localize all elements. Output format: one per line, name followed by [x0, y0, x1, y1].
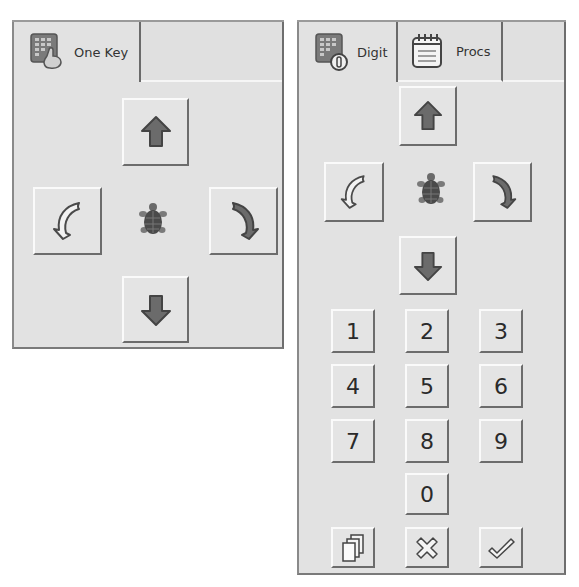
rotate-right-icon [488, 173, 518, 211]
digit-7-button[interactable]: 7 [331, 419, 375, 463]
turn-right-button[interactable] [473, 162, 532, 222]
tab-label: One Key [74, 45, 128, 60]
digit-0-button[interactable]: 0 [405, 473, 449, 515]
digit-6-button[interactable]: 6 [479, 364, 523, 408]
tab-strip [141, 22, 282, 82]
digit-9-button[interactable]: 9 [479, 419, 523, 463]
digit-5-button[interactable]: 5 [405, 364, 449, 408]
digit-label: 3 [494, 319, 508, 344]
digit-label: 0 [420, 482, 434, 507]
rotate-left-icon [339, 173, 369, 211]
cancel-button[interactable] [405, 527, 449, 568]
turn-left-button[interactable] [33, 187, 102, 255]
move-forward-button[interactable] [399, 86, 457, 146]
tab-label: Procs [456, 44, 491, 59]
turtle-icon [416, 172, 446, 212]
tab-label: Digit [357, 45, 388, 60]
copy-pages-icon [340, 533, 366, 563]
digit-8-button[interactable]: 8 [405, 419, 449, 463]
x-icon [413, 534, 441, 562]
notepad-icon [410, 32, 444, 70]
tab-procs[interactable]: Procs [398, 22, 503, 82]
move-back-button[interactable] [122, 276, 189, 343]
tab-digit[interactable]: Digit [299, 22, 398, 82]
turn-left-button[interactable] [324, 162, 384, 222]
turtle-icon [138, 202, 168, 242]
copy-button[interactable] [331, 527, 375, 568]
arrow-up-icon [413, 100, 443, 132]
confirm-button[interactable] [479, 527, 523, 568]
move-forward-button[interactable] [122, 98, 189, 166]
keypad-digit-icon [315, 32, 349, 72]
digit-label: 9 [494, 429, 508, 454]
rotate-right-icon [227, 200, 261, 242]
digit-3-button[interactable]: 3 [479, 309, 523, 353]
digit-4-button[interactable]: 4 [331, 364, 375, 408]
digit-label: 2 [420, 319, 434, 344]
digit-label: 8 [420, 429, 434, 454]
arrow-up-icon [140, 115, 172, 149]
tab-one-key[interactable]: One Key [14, 22, 141, 82]
digit-label: 4 [346, 374, 360, 399]
digit-1-button[interactable]: 1 [331, 309, 375, 353]
digit-label: 5 [420, 374, 434, 399]
digit-label: 1 [346, 319, 360, 344]
arrow-down-icon [140, 293, 172, 327]
turn-right-button[interactable] [209, 187, 278, 255]
digit-label: 6 [494, 374, 508, 399]
digit-2-button[interactable]: 2 [405, 309, 449, 353]
move-back-button[interactable] [399, 236, 457, 295]
rotate-left-icon [51, 200, 85, 242]
arrow-down-icon [413, 250, 443, 282]
digit-label: 7 [346, 429, 360, 454]
checkmark-icon [486, 535, 516, 561]
keypad-hand-icon [30, 32, 64, 72]
tab-strip [503, 22, 564, 82]
